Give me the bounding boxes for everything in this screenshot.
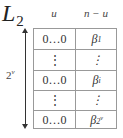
cell-zeros: 0…0	[34, 71, 75, 90]
matrix-table: 0…0 β1 ⋮ ⋮ 0…0 βi ⋮ ⋮ 0…0 β2v	[33, 28, 117, 129]
cell-zeros: 0…0	[34, 111, 75, 129]
cell-vdots: ⋮	[34, 50, 75, 70]
cell-zeros: 0…0	[34, 29, 75, 49]
cell-vdots: ⋮	[34, 91, 75, 110]
cell-vdots: ⋮	[76, 50, 117, 70]
column-divider	[75, 29, 76, 128]
cell-beta: β2v	[76, 111, 117, 129]
double-arrow-icon	[25, 30, 26, 127]
arrow-label: 2v	[6, 68, 15, 81]
column-header-u: u	[34, 7, 74, 19]
cell-beta: β1	[76, 29, 117, 49]
cell-vdots: ⋮	[76, 91, 117, 110]
table-title: L2	[2, 0, 24, 34]
cell-beta: βi	[76, 71, 117, 90]
column-header-n-minus-u: n − u	[75, 7, 117, 19]
